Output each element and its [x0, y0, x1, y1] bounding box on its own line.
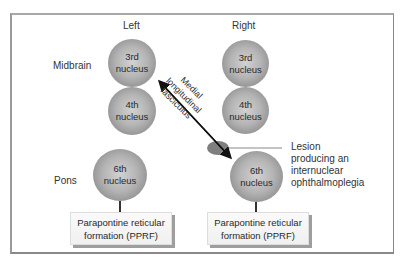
nucleus-number: 4th — [125, 99, 138, 111]
lesion-line-4: ophthalmoplegia — [291, 177, 364, 189]
pprf-line-1: Parapontine reticular — [71, 216, 171, 229]
nucleus-word: nucleus — [229, 64, 262, 76]
left-pprf-box: Parapontine reticular formation (PPRF) — [70, 212, 172, 245]
right-4th-nucleus: 4th nucleus — [222, 87, 269, 134]
nucleus-word: nucleus — [104, 175, 137, 187]
lesion-label: Lesion producing an internuclear ophthal… — [291, 141, 364, 189]
nucleus-number: 3rd — [125, 51, 139, 63]
nucleus-word: nucleus — [116, 111, 149, 123]
lesion-line-2: producing an — [291, 153, 364, 165]
left-6th-nucleus: 6th nucleus — [93, 149, 147, 201]
pprf-line-2: formation (PPRF) — [71, 229, 171, 242]
lesion-line-1: Lesion — [291, 141, 364, 153]
right-pprf-box: Parapontine reticular formation (PPRF) — [207, 212, 309, 245]
right-6th-nucleus: 6th nucleus — [230, 151, 283, 202]
lesion-line-3: internuclear — [291, 165, 364, 177]
nucleus-number: 4th — [239, 99, 252, 111]
nucleus-word: nucleus — [229, 111, 262, 123]
pprf-line-1: Parapontine reticular — [208, 216, 308, 229]
pprf-line-2: formation (PPRF) — [208, 229, 308, 242]
left-3rd-nucleus: 3rd nucleus — [108, 39, 156, 87]
right-3rd-nucleus: 3rd nucleus — [222, 40, 269, 87]
nucleus-number: 6th — [250, 165, 263, 177]
nucleus-word: nucleus — [240, 177, 273, 189]
nucleus-word: nucleus — [116, 63, 149, 75]
nucleus-number: 6th — [113, 163, 126, 175]
nucleus-number: 3rd — [239, 52, 253, 64]
left-4th-nucleus: 4th nucleus — [108, 87, 156, 135]
